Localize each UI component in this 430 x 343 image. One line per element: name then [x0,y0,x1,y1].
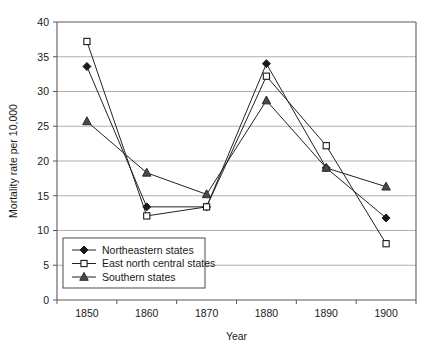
data-point-marker [83,62,91,70]
x-axis-title: Year [226,330,248,342]
legend-item-label: Northeastern states [102,244,194,256]
data-point-marker [323,143,329,149]
x-axis-tick-label: 1850 [75,307,99,319]
y-axis-tick-labels: 0510152025303540 [37,16,49,306]
series-line [87,41,386,243]
data-point-marker [263,73,269,79]
data-point-marker [262,96,270,104]
data-series-2 [84,38,389,246]
mortality-rate-line-chart: 0510152025303540 18501860187018801890190… [0,0,430,343]
data-point-marker [83,117,91,125]
y-axis-tick-label: 5 [43,259,49,271]
gridlines-group [57,57,416,266]
x-axis-tick-labels: 185018601870188018901900 [75,307,398,319]
x-axis-tick-label: 1870 [195,307,219,319]
data-point-marker [84,38,90,44]
y-axis-tick-label: 20 [37,155,49,167]
legend-item-label: East north central states [102,257,215,269]
legend-marker [81,260,87,266]
data-point-marker [144,213,150,219]
data-point-marker [262,60,270,68]
y-axis-tick-label: 0 [43,294,49,306]
x-axis-tick-marks [57,300,416,304]
chart-legend: Northeastern statesEast north central st… [63,238,215,288]
x-axis-tick-label: 1890 [315,307,339,319]
y-axis-tick-label: 30 [37,85,49,97]
y-axis-tick-label: 10 [37,224,49,236]
y-axis-tick-label: 40 [37,16,49,28]
x-axis-tick-label: 1900 [374,307,398,319]
data-point-marker [383,241,389,247]
x-axis-tick-label: 1880 [255,307,279,319]
legend-item-label: Southern states [102,271,176,283]
data-point-marker [203,204,209,210]
y-axis-tick-label: 25 [37,120,49,132]
y-axis-title: Mortality rate per 10,000 [7,104,19,218]
y-axis-tick-label: 35 [37,51,49,63]
data-point-marker [143,168,151,176]
y-axis-tick-label: 15 [37,190,49,202]
chart-canvas: 0510152025303540 18501860187018801890190… [0,0,430,343]
x-axis-tick-label: 1860 [135,307,159,319]
y-axis-tick-marks [53,22,57,300]
data-series-group [83,38,391,246]
